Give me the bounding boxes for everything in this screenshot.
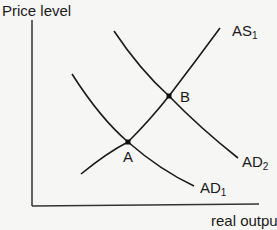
ad1-label: AD1 (200, 180, 226, 198)
x-axis-label: real output (211, 213, 277, 228)
x-axis (32, 204, 259, 206)
ad1-label-text: AD (200, 179, 221, 196)
ad1-label-subscript: 1 (221, 187, 227, 198)
x-axis-label-text: real output (211, 212, 277, 229)
as1-label-subscript: 1 (252, 30, 258, 41)
point-a-marker (126, 140, 131, 145)
point-b-marker (167, 94, 172, 99)
ad2-label-text: AD (242, 153, 263, 170)
point-b-label-text: B (180, 88, 190, 105)
ad2-label-subscript: 2 (263, 161, 269, 172)
point-b-label: B (180, 89, 190, 104)
point-a-label: A (123, 149, 133, 164)
y-axis-label: Price level (2, 3, 71, 18)
ad1-curve (72, 74, 194, 186)
as1-label-text: AS (232, 22, 252, 39)
as1-curve (81, 28, 220, 174)
point-a-label-text: A (123, 148, 133, 165)
ad2-curve (114, 31, 238, 158)
ad2-label: AD2 (242, 154, 268, 172)
as1-label: AS1 (232, 23, 258, 41)
y-axis-label-text: Price level (2, 2, 71, 19)
